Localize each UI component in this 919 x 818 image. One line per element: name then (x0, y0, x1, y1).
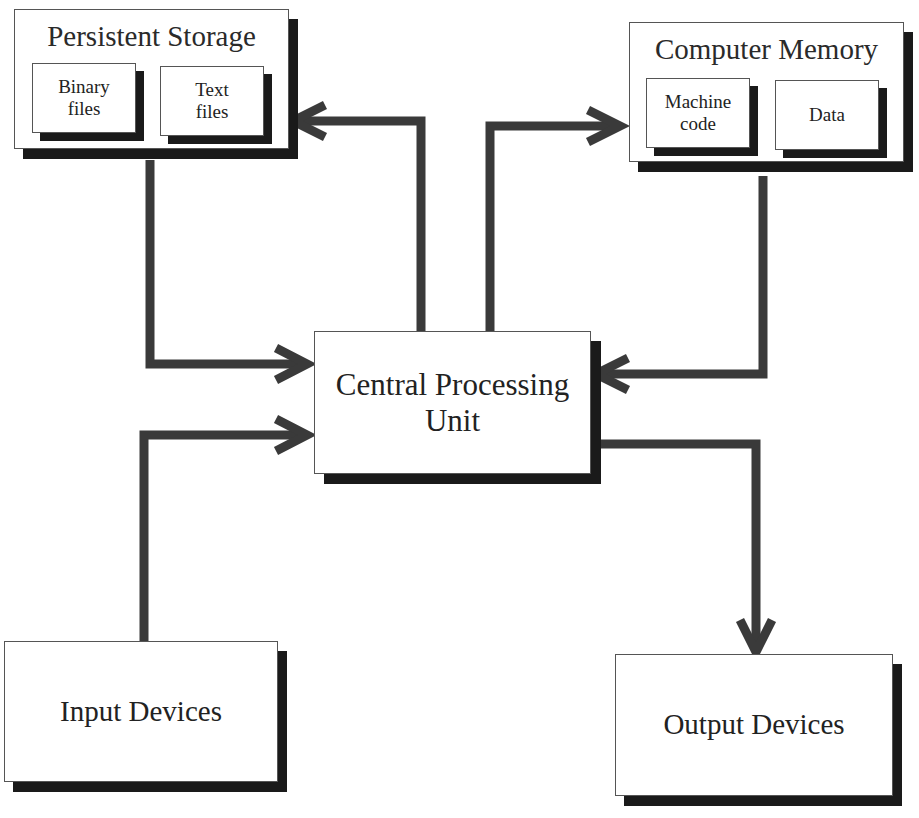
persistent-storage-label: Persistent Storage (15, 20, 288, 53)
text-files-node: Text files (160, 66, 264, 136)
binary-files-node: Binary files (32, 63, 136, 133)
edge-cpu-to-output (596, 444, 756, 650)
input-devices-label: Input Devices (5, 642, 277, 781)
edge-cpu-to-memory (490, 126, 618, 334)
cpu-label: Central Processing Unit (315, 332, 590, 473)
edge-cpu-to-storage (292, 121, 421, 334)
data-node: Data (775, 80, 879, 150)
output-devices-label: Output Devices (616, 655, 892, 795)
edge-memory-to-cpu (597, 176, 763, 374)
cpu-node: Central Processing Unit (314, 331, 591, 474)
edge-storage-to-cpu (150, 160, 305, 364)
machine-code-label: Machine code (647, 79, 749, 147)
output-devices-node: Output Devices (615, 654, 893, 796)
text-files-label: Text files (161, 67, 263, 135)
persistent-storage-node: Persistent Storage Binary files Text fil… (14, 9, 289, 149)
data-label: Data (776, 81, 878, 149)
computer-memory-node: Computer Memory Machine code Data (629, 22, 904, 162)
edge-input-to-cpu (144, 435, 305, 643)
computer-memory-label: Computer Memory (630, 33, 903, 66)
binary-files-label: Binary files (33, 64, 135, 132)
input-devices-node: Input Devices (4, 641, 278, 782)
machine-code-node: Machine code (646, 78, 750, 148)
